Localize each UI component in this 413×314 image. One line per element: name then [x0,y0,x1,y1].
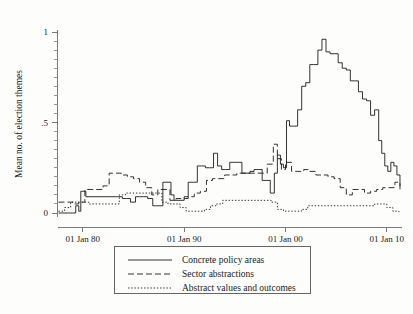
y-tick-label: 0 [44,208,49,218]
legend-label-3[interactable]: Abstract values and outcomes [182,283,296,293]
legend: Concrete policy areasSector abstractions… [128,255,296,293]
line-chart: 0.51 01 Jan 8001 Jan 9001 Jan 0001 Jan 1… [0,0,413,314]
x-tick-label: 01 Jan 00 [268,234,303,244]
y-axis-ticks: 0.51 [41,27,57,218]
chart-figure: 0.51 01 Jan 8001 Jan 9001 Jan 0001 Jan 1… [0,0,413,314]
x-tick-label: 01 Jan 80 [66,234,101,244]
y-axis-title: Mean no. of election themes [14,70,24,178]
series-line-3 [59,193,399,213]
legend-label-2[interactable]: Sector abstractions [182,269,254,279]
legend-label-1[interactable]: Concrete policy areas [182,255,265,265]
series-line-1 [59,39,400,213]
x-axis-ticks: 01 Jan 8001 Jan 9001 Jan 0001 Jan 10 [66,228,405,245]
x-tick-label: 01 Jan 10 [370,234,405,244]
y-tick-label: .5 [41,118,48,128]
data-series-group [59,39,400,213]
series-line-2 [59,144,400,204]
y-tick-label: 1 [44,27,49,37]
x-tick-label: 01 Jan 90 [167,234,202,244]
